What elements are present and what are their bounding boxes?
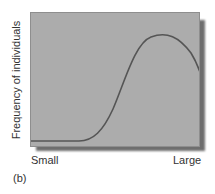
x-tick-small: Small	[31, 154, 59, 166]
chart-figure: Frequency of individuals Small Large (b)	[0, 0, 215, 194]
y-axis-label: Frequency of individuals	[10, 21, 22, 140]
distribution-curve	[31, 13, 200, 147]
x-tick-large: Large	[173, 154, 201, 166]
plot-area	[30, 12, 200, 147]
panel-label: (b)	[13, 172, 26, 184]
